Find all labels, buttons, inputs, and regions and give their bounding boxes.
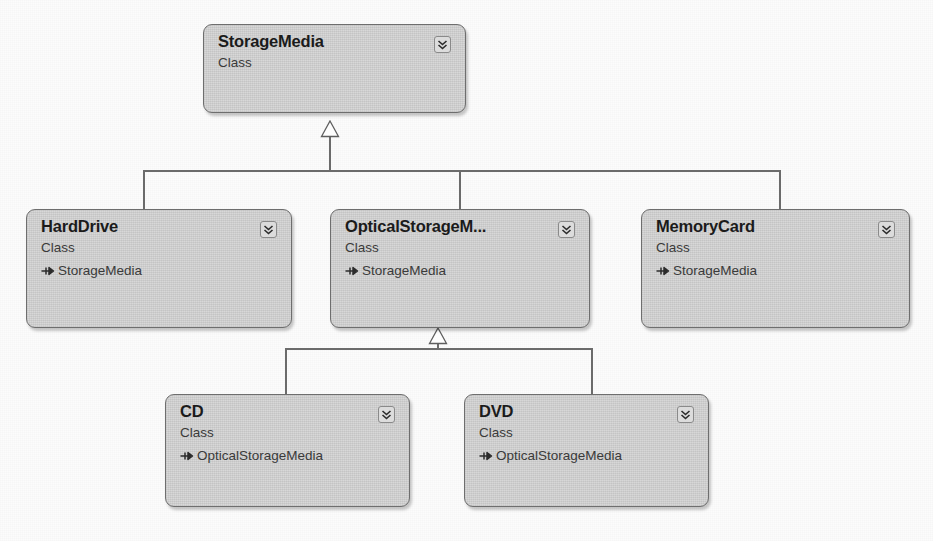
class-name-memorycard: MemoryCard (656, 217, 755, 236)
double-chevron-down-icon[interactable] (260, 221, 277, 238)
double-chevron-down-glyph (437, 39, 448, 50)
double-chevron-down-icon[interactable] (434, 36, 451, 53)
base-class-name-cd: OpticalStorageMedia (197, 448, 323, 463)
class-kind-dvd: Class (479, 425, 513, 440)
connector-optical-bus (285, 348, 593, 350)
class-name-dvd: DVD (479, 402, 513, 421)
generalization-arrow-root (320, 120, 340, 138)
class-name-harddrive: HardDrive (41, 217, 118, 236)
base-class-name-memorycard: StorageMedia (673, 263, 757, 278)
class-box-opticalstoragemedia[interactable]: OpticalStorageM... Class StorageMedia (330, 209, 590, 328)
connector-root-bus (143, 170, 781, 172)
class-kind-opticalstoragemedia: Class (345, 240, 379, 255)
class-box-storagemedia[interactable]: StorageMedia Class (203, 24, 466, 113)
class-box-memorycard[interactable]: MemoryCard Class StorageMedia (641, 209, 910, 328)
base-class-name-dvd: OpticalStorageMedia (496, 448, 622, 463)
double-chevron-down-glyph (680, 409, 691, 420)
class-base-harddrive: StorageMedia (41, 263, 142, 278)
class-diagram-canvas: StorageMedia Class HardDrive Class Stora… (0, 0, 933, 541)
base-class-name-harddrive: StorageMedia (58, 263, 142, 278)
double-chevron-down-glyph (881, 224, 892, 235)
class-name-opticalstoragemedia: OpticalStorageM... (345, 217, 486, 236)
base-class-arrow-icon (41, 265, 55, 277)
double-chevron-down-glyph (561, 224, 572, 235)
double-chevron-down-icon[interactable] (677, 406, 694, 423)
class-box-cd[interactable]: CD Class OpticalStorageMedia (165, 394, 410, 507)
base-class-arrow-icon (345, 265, 359, 277)
connector-root-stem (329, 137, 331, 171)
class-base-dvd: OpticalStorageMedia (479, 448, 622, 463)
double-chevron-down-icon[interactable] (558, 221, 575, 238)
class-box-harddrive[interactable]: HardDrive Class StorageMedia (26, 209, 292, 328)
class-kind-harddrive: Class (41, 240, 75, 255)
base-class-arrow-icon (656, 265, 670, 277)
double-chevron-down-glyph (381, 409, 392, 420)
base-class-arrow-icon (479, 450, 493, 462)
connector-drop-cd (285, 348, 287, 394)
class-kind-storagemedia: Class (218, 55, 252, 70)
connector-drop-dvd (591, 348, 593, 394)
class-base-cd: OpticalStorageMedia (180, 448, 323, 463)
connector-drop-memorycard (779, 170, 781, 209)
double-chevron-down-icon[interactable] (878, 221, 895, 238)
class-box-dvd[interactable]: DVD Class OpticalStorageMedia (464, 394, 709, 507)
base-class-name-opticalstoragemedia: StorageMedia (362, 263, 446, 278)
class-base-memorycard: StorageMedia (656, 263, 757, 278)
double-chevron-down-icon[interactable] (378, 406, 395, 423)
class-kind-cd: Class (180, 425, 214, 440)
connector-drop-harddrive (143, 170, 145, 209)
connector-drop-opticalstoragemedia (459, 170, 461, 209)
double-chevron-down-glyph (263, 224, 274, 235)
class-kind-memorycard: Class (656, 240, 690, 255)
base-class-arrow-icon (180, 450, 194, 462)
class-name-cd: CD (180, 402, 203, 421)
class-base-opticalstoragemedia: StorageMedia (345, 263, 446, 278)
generalization-arrow-optical (428, 327, 448, 345)
class-name-storagemedia: StorageMedia (218, 32, 324, 51)
